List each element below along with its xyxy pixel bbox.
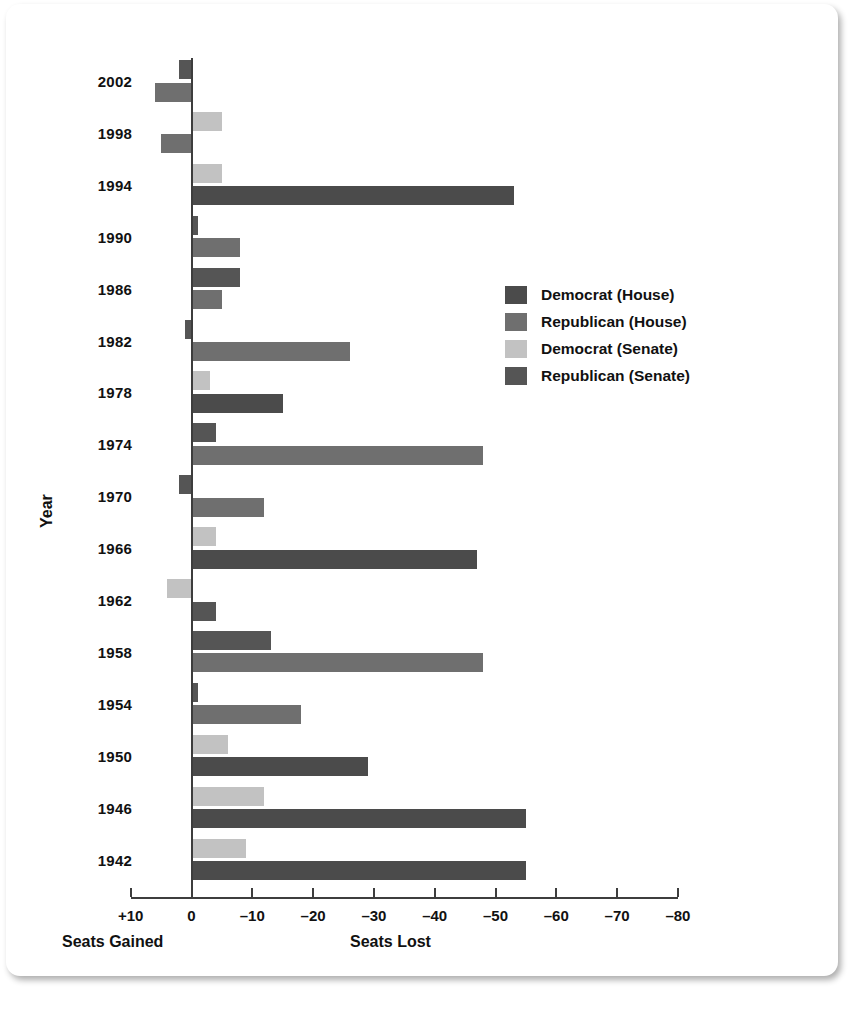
legend-item-3: Republican (Senate) [505, 362, 690, 389]
bar-1958-rep_senate [192, 631, 271, 650]
x-tick-label-2: –10 [222, 907, 282, 924]
chart-plot-area: Year 20021998199419901986198219781974197… [0, 0, 859, 1016]
legend-swatch-1 [505, 313, 527, 331]
bar-1994-dem_house [192, 186, 514, 205]
bar-1958-rep_house [192, 653, 484, 672]
x-axis-line [131, 897, 678, 899]
legend-label-3: Republican (Senate) [541, 367, 690, 385]
year-label-1990: 1990 [62, 229, 132, 246]
bar-1946-dem_senate [192, 787, 265, 806]
x-axis-caption-right: Seats Lost [350, 933, 431, 951]
year-label-2002: 2002 [62, 73, 132, 90]
x-tick-label-3: –20 [283, 907, 343, 924]
x-tick-5 [434, 888, 436, 897]
year-label-1954: 1954 [62, 696, 132, 713]
bar-1998-dem_senate [192, 112, 222, 131]
x-tick-9 [677, 888, 679, 897]
legend-swatch-3 [505, 367, 527, 385]
bar-1942-dem_senate [192, 839, 247, 858]
year-label-1982: 1982 [62, 333, 132, 350]
year-label-1994: 1994 [62, 177, 132, 194]
chart-page: Year 20021998199419901986198219781974197… [0, 0, 859, 1016]
bar-1974-rep_senate [192, 423, 216, 442]
x-tick-label-0: +10 [101, 907, 161, 924]
bar-1990-rep_house [192, 238, 241, 257]
bar-1978-dem_senate [192, 371, 210, 390]
bar-1950-dem_house [192, 757, 368, 776]
x-tick-label-4: –30 [344, 907, 404, 924]
x-tick-label-5: –40 [405, 907, 465, 924]
year-label-1974: 1974 [62, 436, 132, 453]
x-tick-8 [616, 888, 618, 897]
x-tick-2 [251, 888, 253, 897]
year-label-1966: 1966 [62, 540, 132, 557]
y-axis-title: Year [38, 494, 56, 528]
legend-item-2: Democrat (Senate) [505, 335, 690, 362]
x-tick-3 [312, 888, 314, 897]
x-tick-4 [373, 888, 375, 897]
legend-swatch-2 [505, 340, 527, 358]
year-label-1986: 1986 [62, 281, 132, 298]
year-label-1998: 1998 [62, 125, 132, 142]
bar-1946-dem_house [192, 809, 526, 828]
bar-1998-rep_house [161, 134, 191, 153]
year-label-1978: 1978 [62, 384, 132, 401]
legend-label-2: Democrat (Senate) [541, 340, 678, 358]
bar-1974-rep_house [192, 446, 484, 465]
bar-1986-rep_senate [192, 268, 241, 287]
year-label-1950: 1950 [62, 748, 132, 765]
x-tick-1 [191, 888, 193, 897]
x-axis-caption-left: Seats Gained [62, 933, 163, 951]
bar-1954-rep_house [192, 705, 301, 724]
x-tick-0 [130, 888, 132, 897]
legend-swatch-0 [505, 286, 527, 304]
x-tick-label-1: 0 [162, 907, 222, 924]
year-label-1970: 1970 [62, 488, 132, 505]
x-tick-label-8: –70 [587, 907, 647, 924]
bar-1966-dem_senate [192, 527, 216, 546]
bar-1994-dem_senate [192, 164, 222, 183]
year-label-1946: 1946 [62, 800, 132, 817]
legend-label-0: Democrat (House) [541, 286, 675, 304]
bar-1962-dem_senate [167, 579, 191, 598]
x-tick-label-7: –60 [526, 907, 586, 924]
bar-1950-dem_senate [192, 735, 228, 754]
x-tick-6 [495, 888, 497, 897]
year-label-1958: 1958 [62, 644, 132, 661]
x-tick-label-9: –80 [648, 907, 708, 924]
year-label-1942: 1942 [62, 852, 132, 869]
bar-1982-rep_house [192, 342, 350, 361]
bar-1966-dem_house [192, 550, 478, 569]
year-label-1962: 1962 [62, 592, 132, 609]
x-tick-7 [555, 888, 557, 897]
bar-1970-rep_house [192, 498, 265, 517]
bar-1942-dem_house [192, 861, 526, 880]
bar-1978-dem_house [192, 394, 283, 413]
chart-legend: Democrat (House)Republican (House)Democr… [505, 281, 690, 389]
legend-label-1: Republican (House) [541, 313, 687, 331]
bar-1962-rep_senate [192, 602, 216, 621]
bar-1986-rep_house [192, 290, 222, 309]
legend-item-0: Democrat (House) [505, 281, 690, 308]
bar-2002-rep_house [155, 83, 191, 102]
x-tick-label-6: –50 [466, 907, 526, 924]
zero-axis-line [191, 58, 193, 897]
legend-item-1: Republican (House) [505, 308, 690, 335]
